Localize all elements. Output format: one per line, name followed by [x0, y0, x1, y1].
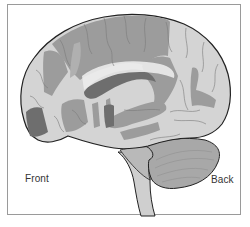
cerebellum — [146, 138, 219, 188]
back-label: Back — [211, 174, 234, 185]
thalamus-column — [104, 105, 114, 129]
brain-illustration — [0, 0, 250, 227]
front-label: Front — [25, 173, 49, 184]
